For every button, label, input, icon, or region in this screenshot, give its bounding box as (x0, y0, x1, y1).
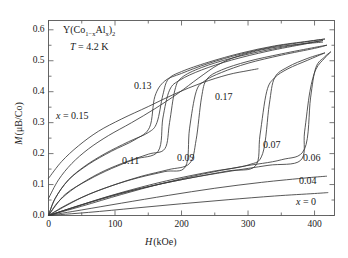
temperature-annotation: T = 4.2 K (70, 41, 108, 52)
label-x-015: x = 0.15 (56, 110, 89, 121)
formula-mid: Al (95, 24, 105, 35)
curve-x-0-07-down (49, 53, 325, 216)
label-007: 0.07 (263, 139, 281, 150)
label-x-0: x = 0 (296, 196, 316, 207)
curve-x-0-07-up (49, 53, 325, 216)
curve-x-0-15 (49, 42, 323, 198)
x-tick-label: 0 (35, 219, 63, 229)
label-017: 0.17 (215, 91, 233, 102)
y-tick-label: 0.2 (19, 148, 45, 158)
curve-x-0-11-down (49, 41, 323, 216)
curve-x-0-04 (49, 176, 327, 215)
y-tick-label: 0.6 (19, 24, 45, 34)
y-axis-label-symbol: M (13, 136, 24, 144)
curve-x-0-13-up (49, 39, 325, 215)
formula-sub-1: 1−x (85, 30, 95, 37)
x-tick-label: 400 (301, 219, 329, 229)
curve-x-0-17 (49, 69, 259, 179)
label-009: 0.09 (177, 152, 195, 163)
label-x-015-value: = 0.15 (60, 110, 88, 121)
x-axis-label-symbol: H (145, 236, 152, 247)
y-tick-label: 0.5 (19, 55, 45, 65)
label-006: 0.06 (303, 152, 321, 163)
x-tick-label: 200 (168, 219, 196, 229)
curve-x-0-06-up (49, 52, 331, 215)
x-axis-label-unit: (kOe) (153, 236, 176, 247)
formula-lead: Y(Co (63, 24, 85, 35)
y-tick-label: 0.1 (19, 179, 45, 189)
curve-x-0-13-down (49, 39, 325, 215)
y-tick-label: 0.0 (19, 210, 45, 220)
x-axis-label: H(kOe) (145, 236, 177, 247)
label-004: 0.04 (299, 175, 317, 186)
data-curves (49, 39, 331, 215)
label-011: 0.11 (122, 155, 139, 166)
temperature-symbol: T (70, 41, 76, 52)
y-tick-label: 0.4 (19, 86, 45, 96)
figure-magnetization-vs-field: M(μB/Co) H(kOe) Y(Co1−xAlx)2 T = 4.2 K x… (0, 0, 348, 258)
y-tick-label: 0.3 (19, 117, 45, 127)
formula-sub-3: 2 (112, 30, 115, 37)
label-013: 0.13 (134, 80, 152, 91)
x-tick-label: 300 (234, 219, 262, 229)
compound-formula: Y(Co1−xAlx)2 (63, 24, 115, 37)
x-tick-label: 100 (101, 219, 129, 229)
curve-x-0-06-down (49, 52, 331, 215)
curve-x-0-11-up (49, 41, 323, 216)
label-x-0-value: = 0 (300, 196, 316, 207)
temperature-value: = 4.2 K (78, 41, 108, 52)
